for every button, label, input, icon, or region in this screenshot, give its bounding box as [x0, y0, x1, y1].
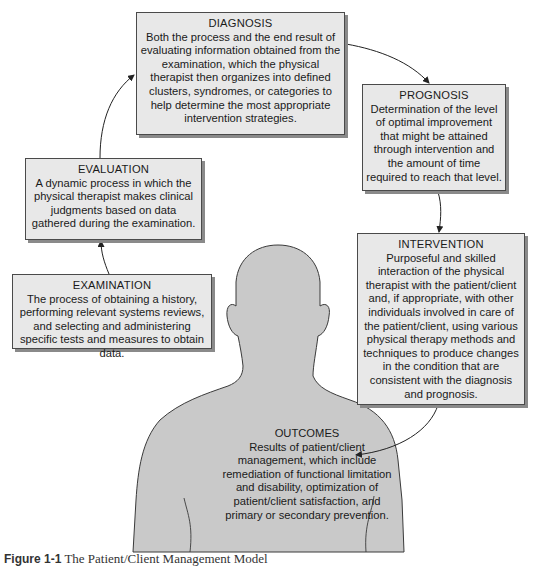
intervention-title: INTERVENTION: [361, 238, 521, 252]
figure-caption: Figure 1-1 The Patient/Client Management…: [4, 551, 268, 567]
arrow-diagnosis-to-prognosis: [346, 44, 429, 83]
examination-box: EXAMINATION The process of obtaining a h…: [12, 274, 212, 349]
examination-title: EXAMINATION: [16, 279, 208, 293]
outcomes-description: Results of patient/client management, wh…: [222, 441, 392, 523]
diagnosis-description: Both the process and the end result of e…: [140, 31, 341, 126]
prognosis-box: PROGNOSIS Determination of the level of …: [362, 84, 506, 191]
arrow-examination-to-evaluation: [101, 241, 109, 274]
prognosis-description: Determination of the level of optimal im…: [366, 103, 502, 185]
figure-title: The Patient/Client Management Model: [64, 551, 267, 566]
diagnosis-title: DIAGNOSIS: [140, 17, 341, 31]
evaluation-title: EVALUATION: [29, 163, 198, 177]
arrow-evaluation-to-diagnosis: [100, 75, 134, 158]
arrow-prognosis-to-intervention: [438, 192, 441, 232]
intervention-box: INTERVENTION Purposeful and skilled inte…: [357, 233, 525, 405]
intervention-description: Purposeful and skilled interaction of th…: [361, 252, 521, 402]
outcomes-label: OUTCOMES Results of patient/client manag…: [222, 427, 392, 522]
figure-number: Figure 1-1: [4, 552, 61, 566]
outcomes-title: OUTCOMES: [222, 427, 392, 441]
evaluation-box: EVALUATION A dynamic process in which th…: [25, 158, 202, 240]
diagnosis-box: DIAGNOSIS Both the process and the end r…: [136, 12, 345, 135]
examination-description: The process of obtaining a history, perf…: [16, 293, 208, 361]
evaluation-description: A dynamic process in which the physical …: [29, 177, 198, 231]
prognosis-title: PROGNOSIS: [366, 89, 502, 103]
